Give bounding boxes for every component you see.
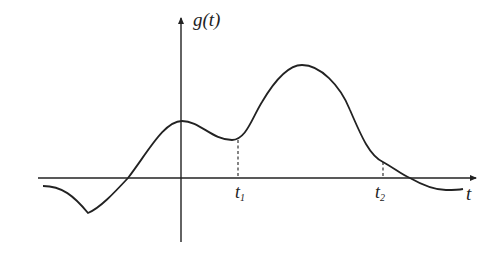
g-curve bbox=[43, 65, 463, 213]
function-plot bbox=[0, 0, 502, 257]
y-axis-label: g(t) bbox=[193, 10, 220, 29]
t2-label: t2 bbox=[375, 183, 385, 203]
x-axis-label: t bbox=[466, 184, 471, 203]
t1-label-sub: 1 bbox=[240, 192, 245, 203]
t2-label-sub: 2 bbox=[380, 192, 385, 203]
t1-label: t1 bbox=[235, 183, 245, 203]
